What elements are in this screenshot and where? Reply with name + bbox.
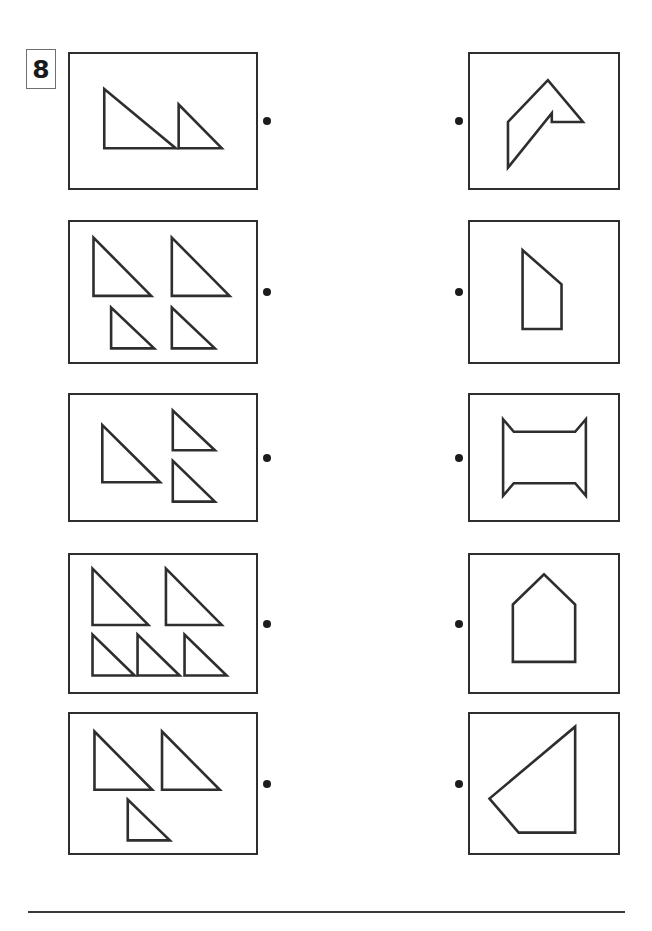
triangle-bottom-left [93,635,135,676]
worksheet-page: 8 [0,0,652,931]
connector-dot-right-3[interactable] [455,454,463,462]
connector-dot-right-2[interactable] [455,288,463,296]
composite-shape-4-panel[interactable] [468,553,620,694]
composite-shape-1-drawing [470,54,618,188]
triangle-set-5-panel[interactable] [68,712,258,855]
composite-shape-5-panel[interactable] [468,712,620,855]
triangle-small-bottom-right [173,461,215,502]
composite-shape-2-panel[interactable] [468,220,620,364]
triangle-set-3-drawing [70,395,256,520]
connector-dot-right-1[interactable] [455,117,463,125]
triangle-top-left [94,731,152,789]
composite-shape-1-panel[interactable] [468,52,620,190]
composite-shape-5-drawing [470,714,618,853]
triangle-bottom-middle [138,635,180,676]
triangle-bottom-middle [128,800,170,841]
connector-dot-left-3[interactable] [263,454,271,462]
triangle-small [179,104,222,148]
composite-shape-3-panel[interactable] [468,393,620,522]
connector-dot-left-5[interactable] [263,780,271,788]
right-trapezoid [523,250,562,329]
kite-triangle-polygon [489,727,575,833]
composite-shape-2-drawing [470,222,618,362]
triangle-top-right [166,569,222,625]
exercise-number-badge: 8 [26,49,56,89]
triangle-large-left [102,425,160,482]
triangle-set-1-drawing [70,54,256,188]
triangle-set-1-panel[interactable] [68,52,258,190]
footer-divider [28,911,625,913]
triangle-set-4-drawing [70,555,256,692]
triangle-bottom-right [185,635,227,676]
triangle-set-2-drawing [70,222,256,362]
concave-hourglass-square [503,419,586,496]
exercise-number-label: 8 [32,57,49,82]
triangle-bottom-left [111,308,154,349]
triangle-large [104,89,175,148]
triangle-set-3-panel[interactable] [68,393,258,522]
triangle-set-2-panel[interactable] [68,220,258,364]
triangle-set-4-panel[interactable] [68,553,258,694]
triangle-bottom-right [172,308,215,349]
triangle-top-left [93,569,149,625]
triangle-top-right [172,238,230,296]
house-pentagon [513,574,575,661]
connector-dot-left-2[interactable] [263,288,271,296]
triangle-set-5-drawing [70,714,256,853]
connector-dot-right-5[interactable] [455,780,463,788]
connector-dot-left-4[interactable] [263,620,271,628]
connector-dot-left-1[interactable] [263,117,271,125]
triangle-small-top-right [173,411,215,451]
triangle-top-right [162,731,220,789]
connector-dot-right-4[interactable] [455,620,463,628]
composite-shape-4-drawing [470,555,618,692]
triangle-top-left [93,238,151,296]
arrow-flag-polygon [508,80,583,167]
composite-shape-3-drawing [470,395,618,520]
